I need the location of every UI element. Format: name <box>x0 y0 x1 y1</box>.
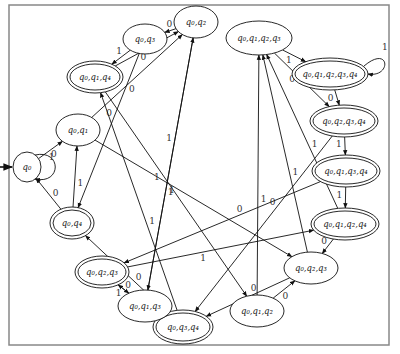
edge-label: 1 <box>169 185 175 195</box>
edge-label: 1 <box>116 288 122 298</box>
edge-label: 0 <box>167 19 173 29</box>
edge-label: 0 <box>328 93 334 103</box>
state-label: q₀,q₁ <box>68 125 88 135</box>
state-node-q0q1q3: q₀,q₁,q₃ <box>118 290 172 322</box>
state-node-q0q1q2q3q4: q₀,q₁,q₂,q₃,q₄ <box>292 58 368 90</box>
state-label: q₀,q₂,q₃ <box>295 263 328 273</box>
state-node-q0q1q2q3: q₀,q₁,q₂,q₃ <box>226 21 292 55</box>
state-label: q₀,q₁,q₂,q₄ <box>323 219 367 229</box>
edge-label: 1 <box>116 46 122 56</box>
state-node-q0: q₀ <box>13 152 41 182</box>
state-node-q0q1: q₀,q₁ <box>56 114 100 146</box>
edge-label: 1 <box>154 172 160 182</box>
edge <box>345 137 346 155</box>
edge-label: 0 <box>251 283 257 293</box>
edge <box>257 55 259 295</box>
edge <box>148 38 193 290</box>
state-node-q0q1q2q4: q₀,q₁,q₂,q₄ <box>311 208 379 240</box>
state-node-q0q2q3: q₀,q₂,q₃ <box>284 252 338 284</box>
state-label: q₀,q₃ <box>135 34 156 44</box>
state-node-q0q4: q₀,q₄ <box>50 207 94 239</box>
state-label: q₀,q₄ <box>62 218 83 228</box>
edge-label: 1 <box>336 139 342 149</box>
state-label: q₀,q₁,q₄ <box>79 72 112 82</box>
state-node-q0q2q3q4: q₀,q₂,q₃,q₄ <box>310 105 378 137</box>
edge-label: 0 <box>129 84 135 94</box>
state-label: q₀,q₁,q₃ <box>129 301 162 311</box>
state-node-q0q1q3q4: q₀,q₁,q₃,q₄ <box>312 155 380 187</box>
state-node-q0q1q2: q₀,q₁,q₂ <box>230 295 284 327</box>
edge <box>335 90 340 105</box>
edge-label: 1 <box>200 253 206 263</box>
edge-label: 1 <box>149 216 155 226</box>
state-label: q₀,q₂,q₃ <box>86 267 119 277</box>
edge-label: 1 <box>292 167 298 177</box>
state-label: q₀ <box>23 162 32 172</box>
edge-label: 0 <box>125 280 131 290</box>
state-label: q₀,q₁,q₂ <box>241 306 274 316</box>
state-label: q₀,q₁,q₂,q₃,q₄ <box>302 69 358 79</box>
state-label: q₀,q₃,q₄ <box>167 322 200 332</box>
state-node-q0q2: q₀,q₂ <box>174 6 218 38</box>
edge-label: 1 <box>337 190 343 200</box>
nodes-layer: q₀q₀,q₁q₀,q₄q₀,q₃q₀,q₂q₀,q₁,q₄q₀,q₁,q₂,q… <box>13 6 380 344</box>
state-label: q₀,q₁,q₃,q₄ <box>324 166 368 176</box>
state-node-q0q2q3b: q₀,q₂,q₃ <box>75 256 129 288</box>
edge-label: 0 <box>237 204 243 214</box>
state-node-q0q1q4: q₀,q₁,q₄ <box>67 61 123 93</box>
edge-label: 1 <box>261 194 267 204</box>
edge-label: 1 <box>382 42 388 52</box>
state-node-q0q3: q₀,q₃ <box>123 24 167 54</box>
state-label: q₀,q₁,q₂,q₃ <box>237 33 281 43</box>
edge-label: 0 <box>136 272 142 282</box>
state-label: q₀,q₂,q₃,q₄ <box>322 116 366 126</box>
edge-label: 1 <box>286 55 292 65</box>
dfa-diagram: 01010101100110101010010101100111 q₀q₀,q₁… <box>0 0 400 354</box>
edge-label: 1 <box>312 139 318 149</box>
edge-label: 0 <box>53 188 59 198</box>
state-label: q₀,q₂ <box>186 17 207 27</box>
edge-label: 1 <box>49 152 55 162</box>
edge-label: 0 <box>283 291 289 301</box>
edge <box>73 146 77 207</box>
edge-label: 1 <box>166 133 172 143</box>
edge-label: 1 <box>78 178 84 188</box>
